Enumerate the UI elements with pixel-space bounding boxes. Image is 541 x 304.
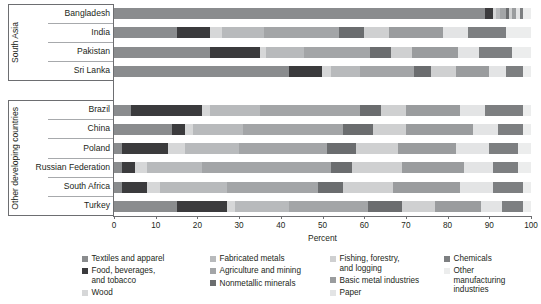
legend-label: Paper [340,288,362,298]
bar-segment [391,47,412,58]
bar-segment [177,201,227,212]
x-tick [156,216,157,219]
bar-segment [489,143,518,154]
bar-segment [406,105,460,116]
x-tick [114,216,115,219]
bar-bangladesh [114,8,531,19]
legend-item: Wood [82,288,164,298]
bar-segment [222,27,264,38]
bar-segment [147,162,201,173]
bar-segment [343,182,393,193]
stacked-bar-chart: South Asia Other developing countries Ba… [0,0,541,304]
legend-swatch-icon [444,268,450,274]
x-tick-label: 20 [193,221,202,230]
label-separator [48,138,114,139]
legend-swatch-icon [330,290,336,296]
legend-label: Fishing, forestry, and logging [340,254,404,273]
bar-segment [381,105,406,116]
x-tick-label: 90 [485,221,494,230]
category-label-turkey: Turkey [0,200,110,211]
legend-swatch-icon [210,280,216,286]
bar-segment [210,105,260,116]
group-border-top [8,4,114,5]
bar-segment [523,66,531,77]
label-separator [48,42,114,43]
legend-swatch-icon [82,290,88,296]
label-separator [48,23,114,24]
legend-item: Food, beverages, and tobacco [82,266,164,285]
bar-segment [114,143,122,154]
chart-legend: Textiles and apparelFood, beverages, and… [82,254,541,302]
bar-segment [485,105,523,116]
bar-segment [289,66,322,77]
legend-label: Basic metal industries [340,276,420,286]
x-tick [364,216,365,219]
bar-segment [402,201,435,212]
category-label-pakistan: Pakistan [0,46,110,57]
bar-segment [304,47,371,58]
stacked-bar [114,143,531,154]
bar-segment [239,143,327,154]
bar-segment [406,124,473,135]
bar-segment [506,66,523,77]
bar-segment [131,105,202,116]
legend-item: Paper [330,288,419,298]
label-separator [48,119,114,120]
legend-item: Fabricated metals [210,254,301,264]
legend-item: Textiles and apparel [82,254,164,264]
bar-segment [235,201,289,212]
bar-segment [414,66,431,77]
bar-segment [368,201,401,212]
bar-segment [185,124,193,135]
bar-segment [327,143,356,154]
legend-swatch-icon [210,256,216,262]
bar-segment [512,47,531,58]
bar-segment [393,182,460,193]
group-border-bottom [8,80,114,81]
bar-segment [443,27,468,38]
category-label-india: India [0,27,110,38]
legend-label: Other manufacturing industries [454,266,518,295]
x-tick [489,216,490,219]
stacked-bar [114,182,531,193]
bar-segment [318,182,343,193]
bar-segment [227,182,319,193]
bar-segment [172,124,185,135]
x-tick-label: 50 [318,221,327,230]
bar-pakistan [114,47,531,58]
bar-segment [458,47,479,58]
legend-label: Agriculture and mining [220,266,301,276]
bar-segment [322,66,330,77]
legend-label: Chemicals [454,254,492,264]
bar-segment [523,8,531,19]
bar-segment [460,105,485,116]
category-label-bangladesh: Bangladesh [0,8,110,19]
bar-segment [356,143,398,154]
bar-segment [114,27,177,38]
group-border-top [8,100,114,101]
x-tick [406,216,407,219]
legend-label: Wood [92,288,113,298]
bar-segment [331,162,352,173]
bar-segment [518,143,531,154]
bar-segment [506,27,531,38]
bar-segment [331,66,360,77]
x-tick-label: 60 [360,221,369,230]
x-tick-label: 100 [524,221,538,230]
bar-segment [498,124,523,135]
label-separator [48,177,114,178]
x-tick [448,216,449,219]
legend-item: Other manufacturing industries [444,266,518,295]
bar-segment [243,124,343,135]
legend-swatch-icon [82,256,88,262]
bar-segment [160,182,227,193]
bar-segment [227,201,235,212]
bar-segment [339,27,364,38]
bar-segment [479,47,512,58]
bar-segment [114,8,485,19]
legend-swatch-icon [330,256,336,262]
bar-sri-lanka [114,66,531,77]
bar-segment [114,105,131,116]
bar-segment [210,27,223,38]
stacked-bar [114,105,531,116]
